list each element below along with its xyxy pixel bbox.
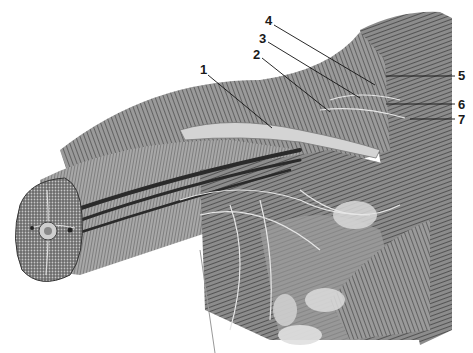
leader-1	[208, 75, 272, 128]
label-4: 4	[265, 14, 272, 27]
leader-2	[262, 58, 330, 112]
label-3: 3	[259, 32, 266, 45]
leader-3	[268, 42, 360, 98]
label-7: 7	[458, 113, 465, 126]
label-2: 2	[253, 48, 260, 61]
label-1: 1	[200, 63, 207, 76]
label-6: 6	[458, 98, 465, 111]
leader-lines	[0, 0, 473, 353]
label-5: 5	[458, 69, 465, 82]
